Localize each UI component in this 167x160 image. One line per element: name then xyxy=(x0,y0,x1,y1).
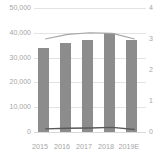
left-axis-tick-40000: 40,000 xyxy=(10,29,31,37)
left-axis-tick-0: 0 xyxy=(27,128,31,136)
right-axis-tick-1: 1 xyxy=(149,97,153,105)
chart-container: 50,000 40,000 30,000 20,000 10,000 0 4 3… xyxy=(0,0,167,160)
x-label-2019E: 2019E xyxy=(111,143,147,151)
left-axis-tick-30000: 30,000 xyxy=(10,54,31,62)
line-lower xyxy=(45,127,135,129)
left-axis-tick-10000: 10,000 xyxy=(10,103,31,111)
left-axis-tick-50000: 50,000 xyxy=(10,4,31,12)
line-series-overlay xyxy=(34,8,146,132)
right-axis-tick-4: 4 xyxy=(149,4,153,12)
axis-baseline xyxy=(34,132,146,133)
line-upper xyxy=(45,33,135,39)
right-axis-tick-3: 3 xyxy=(149,35,153,43)
plot-area xyxy=(34,8,146,132)
right-axis-tick-2: 2 xyxy=(149,66,153,74)
left-axis-tick-20000: 20,000 xyxy=(10,78,31,86)
right-axis-tick-0: 0 xyxy=(149,128,153,136)
